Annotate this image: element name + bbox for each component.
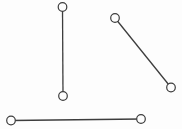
horizontal-segment-end-node bbox=[137, 115, 146, 124]
vertical-segment-start-node bbox=[58, 3, 67, 12]
diagonal-segment-end-node bbox=[167, 83, 176, 92]
horizontal-segment-start-node bbox=[7, 116, 16, 125]
vertical-segment-end-node bbox=[59, 92, 68, 101]
vertical-segment-line bbox=[63, 7, 64, 96]
diagonal-segment-start-node bbox=[111, 14, 120, 23]
diagram-canvas bbox=[0, 0, 182, 129]
horizontal-segment-line bbox=[11, 119, 141, 121]
diagonal-segment-line bbox=[115, 18, 171, 88]
